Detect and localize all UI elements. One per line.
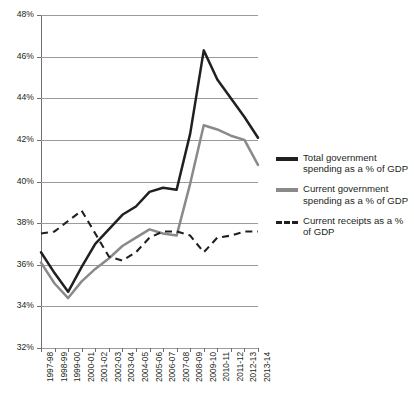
x-tick-mark: [177, 348, 178, 352]
x-tick-mark: [204, 348, 205, 352]
x-tick-label: 2005-06: [154, 352, 164, 382]
x-tick-mark: [95, 348, 96, 352]
series-line-current-government-spending: [41, 125, 258, 298]
solid-grey-line-swatch-icon: [276, 183, 298, 197]
x-tick-mark: [109, 348, 110, 352]
x-tick-label: 2006-07: [167, 352, 177, 382]
x-tick-mark: [68, 348, 69, 352]
x-tick-label: 2011-12: [235, 352, 245, 381]
x-tick-mark: [136, 348, 137, 352]
legend-label-current-receipts: Current receipts as a % of GDP: [303, 215, 412, 237]
solid-black-line-swatch-icon: [276, 152, 298, 166]
y-tick-label: 46%: [0, 52, 34, 61]
dashed-black-line-swatch-icon: [276, 215, 298, 229]
series-plot: [41, 15, 258, 348]
legend-item-current-government-spending: Current government spending as a % of GD…: [276, 183, 412, 205]
y-tick-label: 40%: [0, 177, 34, 186]
x-tick-mark: [122, 348, 123, 352]
y-tick-label: 38%: [0, 218, 34, 227]
x-tick-mark: [258, 348, 259, 352]
x-tick-label: 2001-02: [99, 352, 109, 382]
x-tick-label: 2008-09: [194, 352, 204, 382]
legend-item-total-government-spending: Total government spending as a % of GDP: [276, 152, 412, 174]
x-tick-mark: [55, 348, 56, 352]
series-line-current-receipts: [41, 211, 258, 261]
legend-label-current-government-spending: Current government spending as a % of GD…: [303, 183, 412, 205]
x-tick-mark: [41, 348, 42, 352]
x-tick-label: 1999-00: [72, 352, 82, 382]
x-tick-label: 1998-99: [59, 352, 69, 382]
y-tick-label: 32%: [0, 343, 34, 352]
x-tick-mark: [217, 348, 218, 352]
x-tick-label: 2013-14: [262, 352, 272, 382]
x-tick-label: 2010-11: [221, 352, 231, 381]
chart-legend: Total government spending as a % of GDP …: [276, 152, 412, 246]
x-tick-label: 2007-08: [181, 352, 191, 382]
x-tick-label: 2003-04: [126, 352, 136, 382]
x-tick-label: 2012-13: [248, 352, 258, 382]
x-tick-mark: [163, 348, 164, 352]
y-tick-label: 34%: [0, 301, 34, 310]
x-tick-mark: [231, 348, 232, 352]
y-tick-label: 48%: [0, 10, 34, 19]
y-tick-label: 36%: [0, 260, 34, 269]
x-tick-mark: [82, 348, 83, 352]
line-chart: 48%46%44%42%40%38%36%34%32% 1997-981998-…: [0, 0, 414, 416]
x-tick-label: 1997-98: [45, 352, 55, 382]
x-tick-mark: [244, 348, 245, 352]
y-tick-label: 44%: [0, 93, 34, 102]
x-tick-mark: [190, 348, 191, 352]
series-line-total-government-spending: [41, 50, 258, 291]
legend-item-current-receipts: Current receipts as a % of GDP: [276, 215, 412, 237]
x-tick-label: 2000-01: [86, 352, 96, 382]
x-tick-label: 2002-03: [113, 352, 123, 382]
y-tick-label: 42%: [0, 135, 34, 144]
x-tick-mark: [150, 348, 151, 352]
legend-label-total-government-spending: Total government spending as a % of GDP: [303, 152, 412, 174]
x-tick-label: 2004-05: [140, 352, 150, 382]
x-tick-label: 2009-10: [208, 352, 218, 382]
